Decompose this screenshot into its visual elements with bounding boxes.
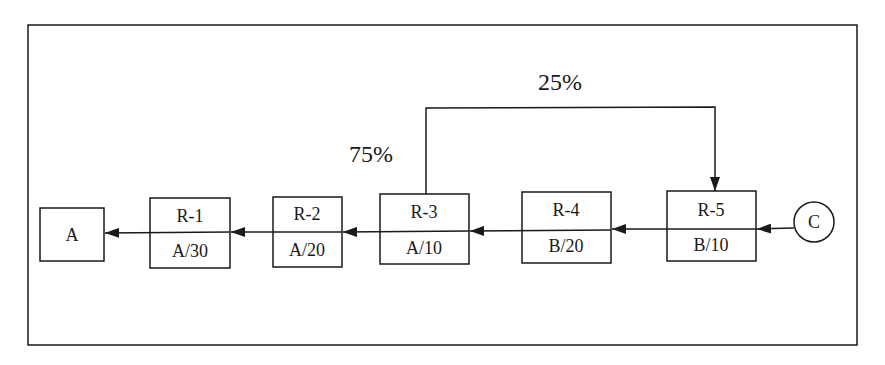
unit-r4-name: R-4 bbox=[553, 200, 580, 220]
unit-r3-name: R-3 bbox=[411, 202, 438, 222]
arrow-c-to-r5 bbox=[757, 228, 794, 229]
unit-r3: R-3 A/10 bbox=[380, 194, 469, 264]
process-flow-diagram: A R-1 A/30 R-2 A/20 R-3 A/10 R-4 B/20 R-… bbox=[0, 0, 885, 365]
recycle-arrow-r3-to-r5 bbox=[426, 107, 715, 194]
unit-r1-spec: A/30 bbox=[172, 241, 208, 261]
unit-r4: R-4 B/20 bbox=[522, 192, 611, 263]
unit-r2-name: R-2 bbox=[294, 204, 321, 224]
arrow-r3-to-r2 bbox=[343, 231, 469, 232]
unit-r5: R-5 B/10 bbox=[667, 191, 756, 261]
arrow-r1-to-a bbox=[105, 232, 230, 233]
recycle-percent-label: 25% bbox=[538, 69, 582, 95]
recycle-loop bbox=[426, 107, 715, 194]
unit-r4-spec: B/20 bbox=[548, 236, 583, 256]
unit-r5-spec: B/10 bbox=[693, 235, 728, 255]
sink-label: A bbox=[66, 225, 79, 245]
sink-box-a: A bbox=[40, 208, 104, 261]
forward-percent-label: 75% bbox=[349, 141, 393, 167]
unit-r3-spec: A/10 bbox=[406, 238, 442, 258]
unit-r1-name: R-1 bbox=[177, 206, 204, 226]
unit-r5-name: R-5 bbox=[698, 200, 725, 220]
unit-r2-spec: A/20 bbox=[289, 240, 325, 260]
diagram-frame bbox=[28, 25, 857, 345]
source-circle-c: C bbox=[794, 202, 834, 242]
arrow-r4-to-r3 bbox=[470, 230, 611, 231]
source-label: C bbox=[808, 212, 820, 232]
